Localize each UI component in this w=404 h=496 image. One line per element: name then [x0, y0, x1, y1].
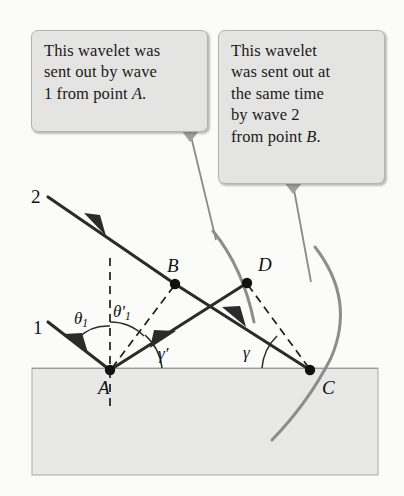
point-label-A: A — [98, 378, 110, 397]
callout-right-line-5-text: from point — [231, 127, 306, 146]
callout-left-pointer — [190, 132, 216, 240]
angle-label-theta1: θ1 — [74, 310, 88, 330]
callout-right-line-2: was sent out at — [231, 61, 373, 82]
callout-right-line-1: This wavelet — [231, 40, 373, 61]
callout-wavelet-from-B: This wavelet was sent out at the same ti… — [218, 30, 385, 184]
callout-right-line-3: the same time — [231, 83, 373, 104]
callout-left-line-3: 1 from point A. — [44, 83, 196, 104]
point-label-C: C — [322, 378, 335, 397]
callout-right-point-ref: B — [306, 127, 316, 146]
angle-label-theta1-prime: θ′1 — [113, 303, 131, 323]
point-label-B: B — [167, 256, 179, 275]
callout-left-period: . — [142, 84, 146, 103]
angle-label-theta1-prime-subscript: 1 — [125, 310, 131, 322]
callout-right-pointer — [293, 184, 311, 282]
angle-label-gamma: γ — [243, 344, 250, 361]
angle-label-gamma-prime-symbol: γ — [158, 344, 165, 363]
callout-right-period: . — [317, 127, 321, 146]
ray-label-wave2: 2 — [31, 187, 41, 206]
callout-left-point-ref: A — [132, 84, 142, 103]
angle-arc-theta1-prime — [110, 322, 144, 336]
angle-label-gamma-prime-mark: ′ — [165, 344, 169, 363]
angle-label-gamma-prime: γ′ — [158, 345, 168, 362]
point-marker-D — [242, 278, 252, 288]
angle-label-theta1-subscript: 1 — [82, 317, 88, 329]
angle-label-gamma-symbol: γ — [243, 343, 250, 362]
ray-label-wave1: 1 — [33, 318, 43, 337]
dashed-wavefront-DC — [248, 285, 309, 368]
callout-right-line-4: by wave 2 — [231, 104, 373, 125]
callout-left-line-1: This wavelet was — [44, 40, 196, 61]
ray-wave2-segment-to-B — [48, 197, 175, 284]
callout-left-line-3-text: 1 from point — [44, 84, 132, 103]
figure-container: This wavelet was sent out by wave 1 from… — [0, 0, 404, 496]
point-label-D: D — [258, 255, 272, 274]
point-marker-B — [170, 279, 180, 289]
callout-wavelet-from-A: This wavelet was sent out by wave 1 from… — [31, 30, 208, 132]
point-marker-C — [305, 365, 315, 375]
callout-left-line-2: sent out by wave — [44, 61, 196, 82]
point-marker-A — [105, 365, 115, 375]
ray-wave1-arrowhead — [64, 333, 88, 353]
callout-right-line-5: from point B. — [231, 126, 373, 147]
